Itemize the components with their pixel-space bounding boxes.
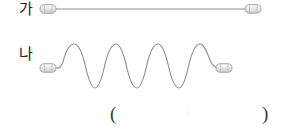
string-wave-diagram [0,0,290,135]
answer-open-paren: ( [110,104,116,123]
row-na-group [40,44,232,88]
row-ga-group [40,5,261,14]
right-clamp-na [216,64,232,73]
standing-wave-path [56,44,218,88]
answer-close-paren: ) [262,104,268,123]
answer-blank-faint-mark [186,108,189,118]
left-clamp-na [40,64,56,73]
left-clamp-ga [40,5,56,14]
figure-canvas: 가 나 [0,0,290,135]
right-clamp-ga [245,5,261,14]
